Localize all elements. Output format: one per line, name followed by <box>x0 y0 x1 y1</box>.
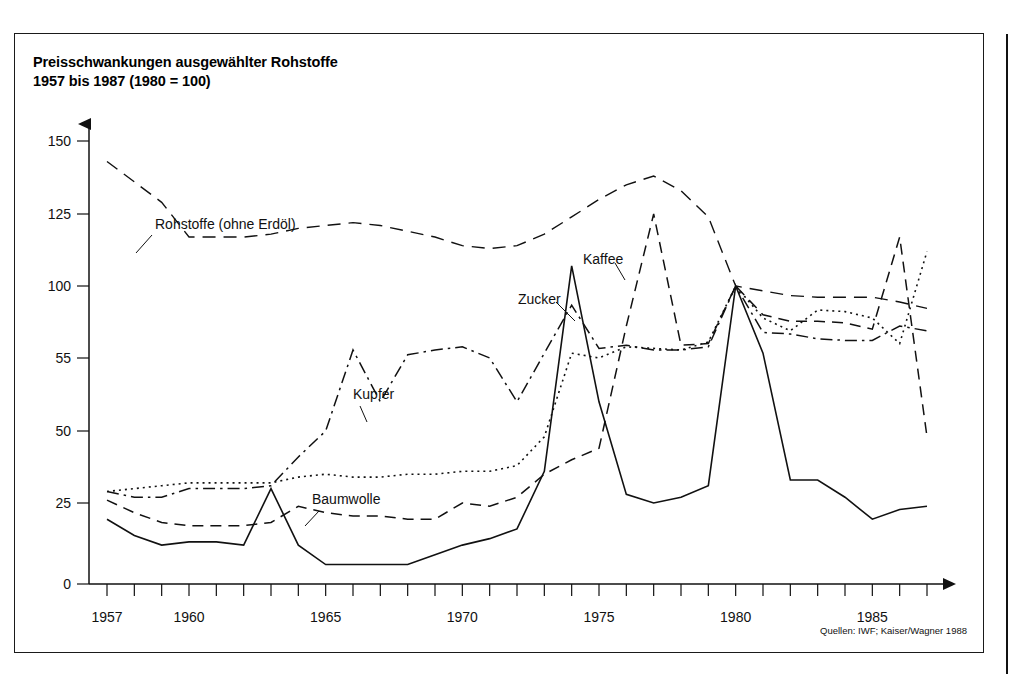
y-tick-label-0: 0 <box>63 576 71 592</box>
y-tick-label-50: 50 <box>55 423 71 439</box>
series-line-kaffee <box>107 214 927 526</box>
series-line-baumwolle <box>107 251 927 491</box>
x-tick-label-1975: 1975 <box>583 609 614 625</box>
chart-frame: Preisschwankungen ausgewählter Rohstoffe… <box>14 33 984 653</box>
chart-plot-area: 150 125 100 55 50 25 0 19571960196519701… <box>15 34 985 654</box>
x-tick-label-1970: 1970 <box>447 609 478 625</box>
x-tick-label-1985: 1985 <box>857 609 888 625</box>
x-tick-label-1980: 1980 <box>720 609 751 625</box>
series-label-kaffee: Kaffee <box>583 251 623 267</box>
series-label-zucker: Zucker <box>518 291 561 307</box>
series-label-kupfer: Kupfer <box>353 386 395 402</box>
y-axis: 150 125 100 55 50 25 0 <box>48 124 89 592</box>
series-line-rohstoffe-ohne-erd-l <box>107 161 927 308</box>
y-tick-label-125: 125 <box>48 206 72 222</box>
y-tick-label-25: 25 <box>55 495 71 511</box>
y-tick-label-100: 100 <box>48 278 72 294</box>
series-line-kupfer <box>107 286 927 497</box>
y-tick-label-55: 55 <box>55 350 71 366</box>
page-side-rule <box>1006 34 1008 674</box>
x-tick-label-1957: 1957 <box>91 609 122 625</box>
source-note: Quellen: IWF; Kaiser/Wagner 1988 <box>820 625 967 636</box>
x-axis: 1957196019651970197519801985 <box>89 584 945 625</box>
annotation-group: Rohstoffe (ohne Erdöl)KupferBaumwolleZuc… <box>155 216 623 507</box>
y-tick-label-150: 150 <box>48 133 72 149</box>
series-label-rohstoffe-ohne-erd-l: Rohstoffe (ohne Erdöl) <box>155 216 296 232</box>
series-line-zucker <box>107 266 927 565</box>
series-label-baumwolle: Baumwolle <box>312 491 381 507</box>
x-tick-label-1960: 1960 <box>173 609 204 625</box>
x-tick-label-1965: 1965 <box>310 609 341 625</box>
